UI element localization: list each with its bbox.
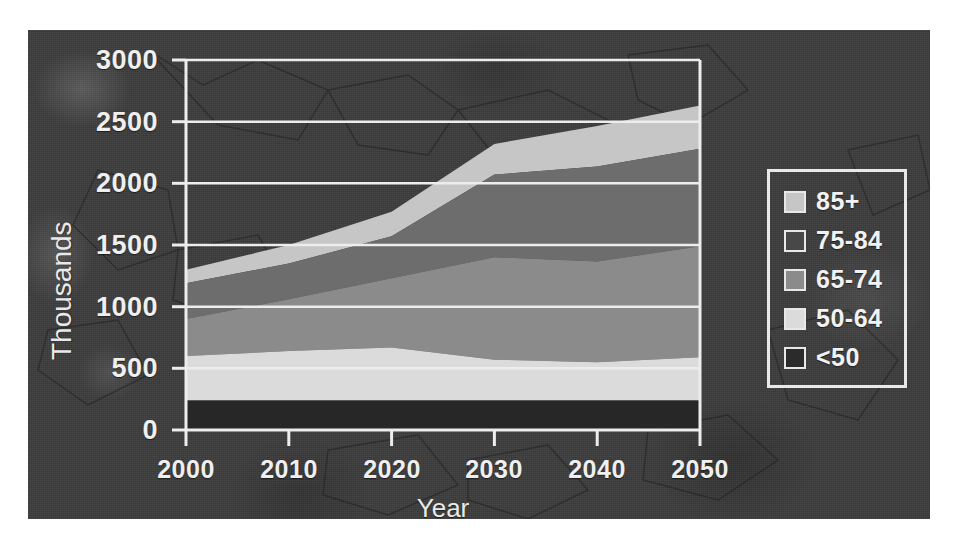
legend-swatch-50-64: [784, 308, 806, 330]
area-under-50: [186, 400, 700, 430]
x-tick-label-2050: 2050: [645, 455, 755, 484]
legend-item-85-plus: 85+: [784, 182, 904, 221]
legend-item-50-64: 50-64: [784, 299, 904, 338]
legend-swatch-75-84: [784, 230, 806, 252]
scanned-chart-plate: 3000 2500 2000 1500 1000 500 0 Thousands…: [28, 30, 930, 519]
legend-item-under-50: <50: [784, 338, 904, 377]
legend-swatch-85-plus: [784, 191, 806, 213]
x-tick-label-2000: 2000: [131, 455, 241, 484]
y-tick-label-0: 0: [48, 415, 158, 446]
y-axis-title: Thousands: [46, 221, 78, 360]
legend-item-75-84: 75-84: [784, 221, 904, 260]
y-tick-label-2000: 2000: [48, 168, 158, 199]
legend-swatch-under-50: [784, 347, 806, 369]
legend-swatch-65-74: [784, 269, 806, 291]
y-tick-label-2500: 2500: [48, 107, 158, 138]
x-tick-label-2040: 2040: [542, 455, 652, 484]
x-tick-label-2020: 2020: [337, 455, 447, 484]
x-tick-marks: [186, 430, 700, 446]
legend-label-under-50: <50: [816, 343, 860, 372]
legend-label-65-74: 65-74: [816, 265, 882, 294]
legend-label-75-84: 75-84: [816, 226, 882, 255]
chart-figure: 3000 2500 2000 1500 1000 500 0 Thousands…: [0, 0, 959, 554]
x-tick-label-2030: 2030: [439, 455, 549, 484]
y-tick-label-3000: 3000: [48, 45, 158, 76]
legend-label-85-plus: 85+: [816, 187, 860, 216]
x-axis-title: Year: [343, 493, 543, 519]
y-tick-marks: [172, 60, 186, 430]
chart-legend: 85+ 75-84 65-74 50-64 <50: [767, 169, 907, 388]
legend-item-65-74: 65-74: [784, 260, 904, 299]
x-tick-label-2010: 2010: [234, 455, 344, 484]
legend-label-50-64: 50-64: [816, 304, 882, 333]
